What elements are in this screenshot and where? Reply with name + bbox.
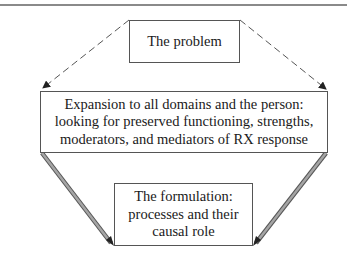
node-problem-label: The problem (147, 33, 222, 51)
node-formulation-label: The formulation: processes and their cau… (128, 188, 238, 241)
dashed-arrow-right (240, 20, 326, 89)
node-formulation: The formulation: processes and their cau… (114, 183, 253, 246)
node-expansion: Expansion to all domains and the person:… (40, 91, 328, 153)
dashed-arrow-left (43, 20, 129, 88)
node-expansion-label: Expansion to all domains and the person:… (55, 96, 314, 149)
node-problem: The problem (129, 20, 240, 63)
